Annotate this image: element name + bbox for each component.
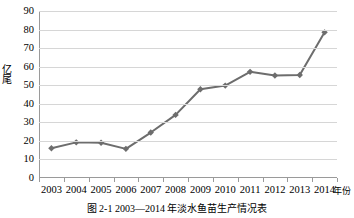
x-axis-tickmark bbox=[64, 178, 65, 182]
chart-figure: 亿尾 0102030405060708090 年份 20032004200520… bbox=[0, 0, 354, 218]
x-axis-tick: 2012 bbox=[261, 183, 289, 197]
gridline bbox=[39, 122, 337, 123]
y-axis-tick: 20 bbox=[14, 136, 34, 146]
x-axis-tickmark bbox=[263, 178, 264, 182]
data-point-marker bbox=[272, 72, 278, 78]
y-axis-tick: 90 bbox=[14, 6, 34, 16]
x-axis-tick: 2003 bbox=[37, 183, 65, 197]
x-axis-tickmark bbox=[238, 178, 239, 182]
y-axis-tick: 60 bbox=[14, 62, 34, 72]
x-axis-tick: 2010 bbox=[211, 183, 239, 197]
x-axis-tick: 2006 bbox=[112, 183, 140, 197]
x-axis-tick: 2009 bbox=[186, 183, 214, 197]
x-axis-tickmark bbox=[213, 178, 214, 182]
plot-area bbox=[39, 11, 337, 178]
x-axis-tick: 2008 bbox=[162, 183, 190, 197]
gridline bbox=[39, 48, 337, 49]
gridline bbox=[39, 141, 337, 142]
gridline bbox=[39, 11, 337, 12]
x-axis-tickmark bbox=[188, 178, 189, 182]
gridline bbox=[39, 159, 337, 160]
data-point-marker bbox=[48, 145, 54, 151]
x-axis-tick: 2013 bbox=[286, 183, 314, 197]
x-axis-tick: 2004 bbox=[62, 183, 90, 197]
y-axis-tick: 80 bbox=[14, 25, 34, 35]
y-axis-tick: 40 bbox=[14, 99, 34, 109]
y-axis-tick: 30 bbox=[14, 117, 34, 127]
gridline bbox=[39, 85, 337, 86]
x-axis-tick: 2005 bbox=[87, 183, 115, 197]
x-axis-tickmark bbox=[337, 178, 338, 182]
series-line bbox=[51, 32, 324, 149]
x-axis-tick: 2011 bbox=[236, 183, 264, 197]
x-axis-tickmark bbox=[312, 178, 313, 182]
y-axis-tick: 0 bbox=[14, 173, 34, 183]
line-series bbox=[39, 11, 337, 178]
y-axis-tick: 10 bbox=[14, 154, 34, 164]
y-axis-label: 亿尾 bbox=[0, 52, 13, 96]
x-axis-tickmark bbox=[138, 178, 139, 182]
x-axis-tick: 2007 bbox=[137, 183, 165, 197]
x-axis-tick: 2014 bbox=[311, 183, 339, 197]
x-axis-tickmark bbox=[114, 178, 115, 182]
gridline bbox=[39, 67, 337, 68]
x-axis-tickmark bbox=[163, 178, 164, 182]
x-axis-tickmark bbox=[39, 178, 40, 182]
x-axis-tickmark bbox=[287, 178, 288, 182]
gridline bbox=[39, 104, 337, 105]
x-axis-tickmark bbox=[89, 178, 90, 182]
gridline bbox=[39, 30, 337, 31]
y-axis-tick: 70 bbox=[14, 43, 34, 53]
x-axis-tick-labels: 年份 2003200420052006200720082009201020112… bbox=[0, 183, 354, 199]
y-axis-tick: 50 bbox=[14, 80, 34, 90]
figure-caption: 图 2-1 2003—2014 年淡水鱼苗生产情况表 bbox=[0, 202, 354, 216]
